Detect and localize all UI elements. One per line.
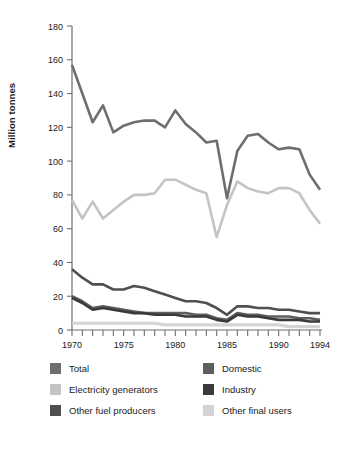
legend-item[interactable]: Other final users — [203, 400, 292, 421]
chart-legend: Total Electricity generators Other fuel … — [0, 358, 346, 438]
series-line-total — [72, 65, 320, 198]
legend-item[interactable]: Other fuel producers — [50, 400, 158, 421]
y-tick-label: 40 — [53, 258, 63, 268]
x-tick-label: 1980 — [165, 340, 185, 350]
legend-label: Other final users — [222, 405, 292, 416]
y-tick-label: 140 — [48, 89, 63, 99]
legend-swatch-electricity-generators — [50, 384, 61, 395]
legend-item[interactable]: Total — [50, 358, 158, 379]
legend-label: Other fuel producers — [69, 405, 156, 416]
x-tick-label: 1985 — [217, 340, 237, 350]
y-tick-label: 180 — [48, 22, 63, 32]
legend-swatch-other-fuel-producers — [50, 405, 61, 416]
y-tick-label: 0 — [58, 326, 63, 336]
legend-label: Domestic — [222, 363, 262, 374]
y-tick-label: 160 — [48, 55, 63, 65]
y-axis-ticks: 020406080100120140160180 — [48, 22, 72, 336]
y-axis-title: Million tonnes — [6, 83, 17, 148]
legend-label: Total — [69, 363, 89, 374]
legend-item[interactable]: Industry — [203, 379, 292, 400]
legend-item[interactable]: Domestic — [203, 358, 292, 379]
y-tick-label: 20 — [53, 292, 63, 302]
series-group — [72, 65, 320, 327]
legend-column-right: Domestic Industry Other final users — [203, 358, 292, 421]
x-tick-label: 1994 — [310, 340, 330, 350]
legend-label: Industry — [222, 384, 256, 395]
y-tick-label: 120 — [48, 123, 63, 133]
x-tick-label: 1990 — [269, 340, 289, 350]
legend-column-left: Total Electricity generators Other fuel … — [50, 358, 158, 421]
legend-item[interactable]: Electricity generators — [50, 379, 158, 400]
y-tick-label: 80 — [53, 190, 63, 200]
x-axis-ticks: 197019751980198519901994 — [62, 330, 330, 350]
y-tick-label: 60 — [53, 224, 63, 234]
series-line-other-final-users — [72, 323, 320, 326]
chart-container: Million tonnes 020406080100120140160180 … — [0, 0, 346, 455]
x-tick-label: 1970 — [62, 340, 82, 350]
y-tick-label: 100 — [48, 157, 63, 167]
legend-swatch-total — [50, 363, 61, 374]
series-line-electricity-generators — [72, 180, 320, 237]
x-tick-label: 1975 — [114, 340, 134, 350]
legend-swatch-industry — [203, 384, 214, 395]
plot-area: Million tonnes 020406080100120140160180 … — [0, 0, 346, 360]
legend-label: Electricity generators — [69, 384, 158, 395]
legend-swatch-domestic — [203, 363, 214, 374]
axis-lines — [72, 26, 322, 330]
line-chart-svg: 020406080100120140160180 197019751980198… — [0, 0, 346, 360]
legend-swatch-other-final-users — [203, 405, 214, 416]
